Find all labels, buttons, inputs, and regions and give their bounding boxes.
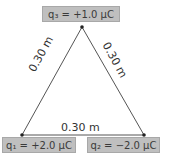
charge-label-q2: q₂ = −2.0 μC	[87, 137, 160, 153]
vertex-q3	[80, 25, 84, 29]
charge-label-q3: q₃ = +1.0 μC	[42, 6, 120, 22]
distance-label-bottom: 0.30 m	[61, 121, 100, 134]
charge-label-q1: q₁ = +2.0 μC	[2, 137, 76, 153]
